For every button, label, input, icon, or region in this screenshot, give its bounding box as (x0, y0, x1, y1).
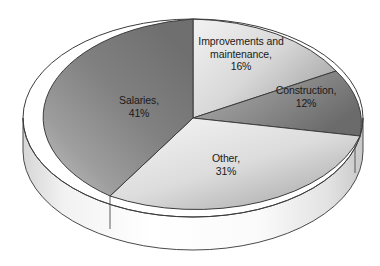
pie-slices (43, 19, 361, 210)
pie-chart: Improvements and maintenance, 16% Constr… (0, 0, 380, 266)
pie-chart-canvas (0, 0, 380, 266)
